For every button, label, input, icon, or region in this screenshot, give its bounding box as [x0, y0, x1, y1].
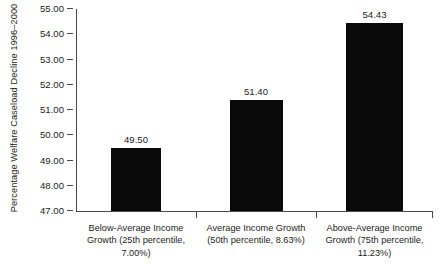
y-tick-label: 51.00: [40, 104, 64, 116]
y-tick: 47.00: [0, 205, 76, 217]
y-tick-mark: [67, 33, 73, 34]
y-tick-label: 50.00: [40, 129, 64, 141]
y-tick-label: 49.00: [40, 155, 64, 167]
y-tick: 50.00: [0, 129, 76, 141]
bar-value-label: 54.43: [345, 9, 405, 20]
bar: [346, 23, 403, 211]
category-label-line: Below-Average Income: [76, 222, 196, 234]
x-tick-mark: [316, 212, 317, 218]
category-label-line: Average Income Growth: [196, 222, 316, 234]
y-tick: 48.00: [0, 180, 76, 192]
y-tick: 55.00: [0, 3, 76, 15]
x-tick-mark: [196, 212, 197, 218]
category-label-line: 7.00%): [76, 247, 196, 259]
y-tick: 54.00: [0, 28, 76, 40]
y-tick-mark: [67, 160, 73, 161]
category-label: Below-Average IncomeGrowth (25th percent…: [76, 222, 196, 259]
category-label-line: Growth (25th percentile,: [76, 234, 196, 246]
bar-value-label: 51.40: [226, 86, 286, 97]
y-tick: 52.00: [0, 79, 76, 91]
y-tick-mark: [67, 109, 73, 110]
bar: [111, 148, 161, 211]
y-axis-line: [76, 9, 77, 212]
y-tick-mark: [67, 134, 73, 135]
category-label: Above-Average IncomeGrowth (75th percent…: [316, 222, 433, 259]
y-tick-label: 48.00: [40, 180, 64, 192]
y-tick-label: 55.00: [40, 3, 64, 15]
category-label-line: Growth (75th percentile,: [316, 234, 433, 246]
x-tick-mark: [432, 212, 433, 218]
y-tick-mark: [67, 185, 73, 186]
category-label-line: (50th percentile, 8.63%): [196, 234, 316, 246]
y-tick-label: 54.00: [40, 28, 64, 40]
bar-chart: Percentage Welfare Caseload Decline 1996…: [0, 0, 443, 276]
y-tick: 49.00: [0, 155, 76, 167]
category-label-line: Above-Average Income: [316, 222, 433, 234]
y-tick-mark: [67, 8, 73, 9]
category-label-line: 11.23%): [316, 247, 433, 259]
bar: [230, 100, 283, 211]
y-tick: 53.00: [0, 54, 76, 66]
y-tick: 51.00: [0, 104, 76, 116]
y-tick-mark: [67, 84, 73, 85]
y-tick-label: 47.00: [40, 205, 64, 217]
category-label: Average Income Growth(50th percentile, 8…: [196, 222, 316, 247]
y-tick-label: 52.00: [40, 79, 64, 91]
bar-value-label: 49.50: [106, 134, 166, 145]
y-tick-label: 53.00: [40, 54, 64, 66]
x-axis-line: [76, 211, 433, 212]
y-tick-mark: [67, 210, 73, 211]
y-tick-mark: [67, 59, 73, 60]
